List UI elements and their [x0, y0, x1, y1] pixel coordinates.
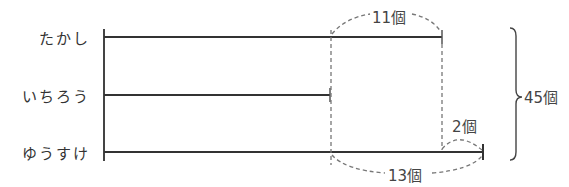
- bar-yusuke: [104, 144, 483, 160]
- label-diff-11: 11個: [372, 6, 406, 27]
- label-yusuke: ゆうすけ: [0, 142, 90, 163]
- tape-diagram: たかし いちろう ゆうすけ 11個 2個 13個 45個: [0, 0, 569, 187]
- total-brace: [510, 28, 522, 160]
- label-ichiro: いちろう: [0, 85, 90, 106]
- label-takashi: たかし: [0, 27, 90, 48]
- bar-takashi: [104, 30, 442, 44]
- label-total-45: 45個: [524, 86, 558, 107]
- arc-small-2: [442, 140, 482, 150]
- label-diff-2: 2個: [452, 115, 477, 136]
- bar-ichiro: [104, 88, 330, 102]
- label-diff-13: 13個: [388, 164, 422, 185]
